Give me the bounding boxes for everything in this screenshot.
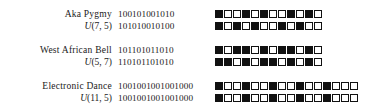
box-empty	[269, 22, 277, 30]
box-filled	[296, 94, 304, 102]
row-label-group: Electronic Dance U(11, 5)	[0, 80, 118, 104]
box-line-bottom	[215, 92, 370, 104]
box-empty	[314, 82, 322, 90]
box-empty	[251, 58, 259, 66]
box-line-top	[215, 80, 370, 92]
box-empty	[314, 22, 322, 30]
box-filled	[215, 58, 223, 66]
unit-args: (11, 5)	[87, 93, 112, 103]
box-empty	[305, 22, 313, 30]
box-filled	[215, 22, 223, 30]
box-empty	[305, 94, 313, 102]
unit-args: (7, 5)	[91, 21, 112, 31]
box-empty	[287, 22, 295, 30]
box-filled	[287, 58, 295, 66]
binary-string-bottom: 101010010100	[118, 20, 215, 32]
box-filled	[242, 58, 250, 66]
box-filled	[224, 58, 232, 66]
box-empty	[233, 10, 241, 18]
box-filled	[296, 82, 304, 90]
box-filled	[305, 58, 313, 66]
box-empty	[314, 94, 322, 102]
box-empty	[233, 94, 241, 102]
box-empty	[341, 82, 349, 90]
box-empty	[224, 22, 232, 30]
box-line-bottom	[215, 20, 370, 32]
box-filled	[242, 82, 250, 90]
unit-symbol: U	[80, 93, 87, 103]
box-empty	[224, 46, 232, 54]
box-empty	[224, 82, 232, 90]
box-empty	[287, 82, 295, 90]
box-empty	[314, 58, 322, 66]
box-filled	[260, 58, 268, 66]
box-empty	[296, 10, 304, 18]
rhythm-unit-label: U(7, 5)	[0, 20, 112, 32]
box-filled	[215, 82, 223, 90]
box-empty	[332, 94, 340, 102]
box-line-top	[215, 8, 370, 20]
box-empty	[269, 10, 277, 18]
rhythm-name-label: Electronic Dance	[0, 80, 112, 92]
rhythm-comparison-figure: Aka Pygmy U(7, 5) 100101001010 101010010…	[0, 0, 370, 112]
binary-string-top: 1001001001001000	[118, 80, 215, 92]
binary-string-bottom: 110101101010	[118, 56, 215, 68]
rhythm-row: Electronic Dance U(11, 5) 10010010010010…	[0, 80, 370, 106]
box-filled	[323, 82, 331, 90]
box-filled	[278, 22, 286, 30]
box-filled	[260, 46, 268, 54]
box-empty	[305, 82, 313, 90]
box-filled	[305, 46, 313, 54]
box-notation-group	[215, 80, 370, 104]
rhythm-name-label: Aka Pygmy	[0, 8, 112, 20]
row-label-group: Aka Pygmy U(7, 5)	[0, 8, 118, 32]
box-empty	[332, 82, 340, 90]
box-empty	[287, 94, 295, 102]
binary-string-top: 100101001010	[118, 8, 215, 20]
binary-string-group: 1001001001001000 1001001001001000	[118, 80, 215, 104]
box-filled	[215, 46, 223, 54]
box-empty	[350, 94, 358, 102]
box-empty	[296, 58, 304, 66]
box-empty	[233, 58, 241, 66]
rhythm-unit-label: U(5, 7)	[0, 56, 112, 68]
rhythm-row: West African Bell U(5, 7) 101101011010 1…	[0, 44, 370, 70]
box-empty	[341, 94, 349, 102]
box-filled	[242, 94, 250, 102]
box-empty	[224, 10, 232, 18]
box-filled	[269, 82, 277, 90]
binary-string-group: 101101011010 110101101010	[118, 44, 215, 68]
box-empty	[278, 94, 286, 102]
box-empty	[296, 46, 304, 54]
box-empty	[278, 10, 286, 18]
box-empty	[224, 94, 232, 102]
box-line-top	[215, 44, 370, 56]
box-filled	[278, 46, 286, 54]
box-empty	[251, 82, 259, 90]
box-filled	[215, 10, 223, 18]
box-empty	[260, 82, 268, 90]
box-empty	[314, 46, 322, 54]
box-filled	[305, 10, 313, 18]
rhythm-row: Aka Pygmy U(7, 5) 100101001010 101010010…	[0, 8, 370, 34]
box-empty	[350, 82, 358, 90]
box-filled	[233, 22, 241, 30]
box-empty	[251, 94, 259, 102]
unit-args: (5, 7)	[91, 57, 112, 67]
box-filled	[233, 46, 241, 54]
binary-string-group: 100101001010 101010010100	[118, 8, 215, 32]
box-empty	[260, 94, 268, 102]
box-filled	[287, 46, 295, 54]
box-empty	[314, 10, 322, 18]
box-notation-group	[215, 8, 370, 32]
box-empty	[278, 58, 286, 66]
box-empty	[260, 22, 268, 30]
box-filled	[287, 10, 295, 18]
box-empty	[233, 82, 241, 90]
rhythm-name-label: West African Bell	[0, 44, 112, 56]
rhythm-unit-label: U(11, 5)	[0, 92, 112, 104]
box-empty	[269, 46, 277, 54]
box-notation-group	[215, 44, 370, 68]
box-filled	[242, 10, 250, 18]
box-filled	[323, 94, 331, 102]
